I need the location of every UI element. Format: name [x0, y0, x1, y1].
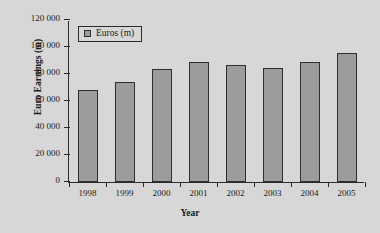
- x-axis-title: Year: [0, 208, 380, 218]
- legend-label-euros: Euros (m): [96, 29, 134, 39]
- x-tick: [365, 182, 366, 187]
- x-tick-label: 2003: [253, 188, 293, 198]
- x-tick-label: 2004: [290, 188, 330, 198]
- x-tick: [69, 182, 70, 187]
- x-tick: [106, 182, 107, 187]
- x-tick-label: 2001: [179, 188, 219, 198]
- x-tick: [217, 182, 218, 187]
- y-tick: 20 000: [64, 154, 70, 155]
- y-tick-label: 0: [0, 175, 60, 185]
- y-tick: 100 000: [64, 46, 70, 47]
- x-tick: [180, 182, 181, 187]
- bar: [300, 62, 320, 182]
- bar: [115, 82, 135, 182]
- y-tick: 80 000: [64, 73, 70, 74]
- bar-chart-figure: Euro Earnings (m) 020 00040 00060 00080 …: [0, 0, 380, 233]
- y-tick: 60 000: [64, 100, 70, 101]
- y-tick-label: 80 000: [0, 67, 60, 77]
- y-tick-label: 40 000: [0, 121, 60, 131]
- chart-legend: Euros (m): [78, 26, 142, 42]
- y-tick: 40 000: [64, 127, 70, 128]
- x-tick-label: 2002: [216, 188, 256, 198]
- bar: [78, 90, 98, 182]
- x-tick: [143, 182, 144, 187]
- x-tick-label: 2005: [327, 188, 367, 198]
- x-tick-label: 1999: [105, 188, 145, 198]
- x-tick-label: 2000: [142, 188, 182, 198]
- plot-area: 020 00040 00060 00080 000100 000120 000 …: [68, 21, 364, 183]
- y-tick-label: 60 000: [0, 94, 60, 104]
- x-tick: [291, 182, 292, 187]
- x-tick: [254, 182, 255, 187]
- bar: [226, 65, 246, 182]
- bar: [189, 62, 209, 182]
- y-tick: 120 000: [64, 19, 70, 20]
- bar: [152, 69, 172, 182]
- y-axis-title: Euro Earnings (m): [33, 0, 43, 157]
- bar: [263, 68, 283, 182]
- bar: [337, 53, 357, 182]
- x-tick: [328, 182, 329, 187]
- y-tick-label: 100 000: [0, 40, 60, 50]
- y-tick-label: 20 000: [0, 148, 60, 158]
- legend-swatch-euros-icon: [84, 30, 91, 37]
- x-tick-label: 1998: [68, 188, 108, 198]
- y-tick-label: 120 000: [0, 13, 60, 23]
